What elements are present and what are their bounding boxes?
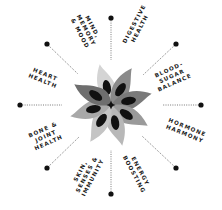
dot-icon — [173, 41, 178, 46]
connector-top-left — [47, 44, 78, 74]
dot-icon — [44, 41, 49, 46]
dot-icon — [108, 191, 113, 196]
dot-icon — [44, 165, 49, 170]
dot-icon — [173, 165, 178, 170]
flower-icon — [68, 62, 154, 148]
wellness-radial-diagram: MIND, MEMORY & MOOD DIGESTIVE HEALTH BLO… — [0, 0, 222, 210]
dot-icon — [198, 102, 203, 107]
connector-bottom-right — [142, 136, 176, 168]
dot-icon — [108, 15, 113, 20]
diagram-graphics — [0, 0, 222, 210]
dot-icon — [17, 102, 22, 107]
